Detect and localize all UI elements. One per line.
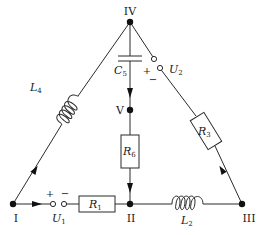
- u1-label: U1: [52, 212, 66, 226]
- u2-terminal-minus: [157, 65, 162, 70]
- branch-I-II: + − U1 R1: [13, 188, 130, 226]
- node-label-V: V: [115, 104, 125, 117]
- node-label-I: I: [14, 212, 18, 225]
- node-V: [127, 107, 133, 113]
- current-arrow-I-II: [32, 201, 42, 207]
- u2-terminal-plus: [151, 56, 156, 61]
- u2-label: U2: [169, 63, 183, 77]
- inductor-l4: [55, 92, 83, 126]
- branch-V-II: R6: [121, 110, 139, 204]
- inductor-l2: [172, 196, 203, 210]
- node-III: [239, 201, 245, 207]
- c5-label: C5: [114, 64, 127, 78]
- current-arrow-IV-V: [127, 88, 133, 98]
- l2-label: L2: [180, 214, 193, 228]
- u1-terminal-plus: [50, 201, 55, 206]
- l4-label: L4: [29, 81, 42, 95]
- current-arrow-V-II: [127, 183, 133, 193]
- node-label-III: III: [242, 212, 255, 225]
- node-II: [127, 201, 133, 207]
- branch-IV-V: C5: [114, 22, 142, 110]
- node-label-IV: IV: [124, 5, 137, 18]
- u2-minus-sign: −: [149, 74, 157, 85]
- branch-I-IV: L4: [13, 22, 130, 204]
- node-IV: [127, 19, 133, 25]
- branch-III-IV: + − U2 R3: [130, 22, 242, 204]
- branch-II-III: L2: [130, 196, 242, 228]
- u1-terminal-minus: [61, 201, 66, 206]
- node-I: [10, 201, 16, 207]
- current-arrow-III-IV: [217, 164, 227, 175]
- u1-minus-sign: −: [61, 188, 69, 199]
- circuit-diagram: + − U1 R1 L2 L4 + − U2 R3: [0, 0, 266, 235]
- node-label-II: II: [127, 212, 136, 225]
- u1-plus-sign: +: [46, 188, 54, 199]
